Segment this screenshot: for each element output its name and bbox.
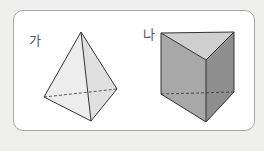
- triangular-prism-figure: [0, 0, 264, 151]
